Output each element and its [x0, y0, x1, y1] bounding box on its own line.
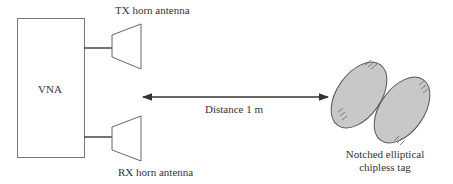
tag-label-line2: chipless tag: [335, 161, 435, 173]
chipless-tag: [320, 52, 441, 153]
tx-antenna-label: TX horn antenna: [115, 4, 190, 16]
rx-horn-antenna: [112, 116, 141, 161]
distance-label: Distance 1 m: [205, 103, 263, 115]
rx-antenna-label: RX horn antenna: [118, 166, 193, 178]
tx-horn-antenna: [112, 24, 141, 69]
tag-label-line1: Notched elliptical: [335, 148, 435, 160]
vna-label: VNA: [38, 83, 62, 95]
